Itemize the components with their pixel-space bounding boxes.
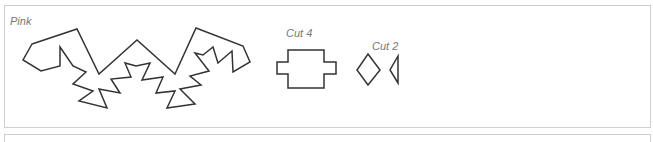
diamond-piece [357, 54, 380, 85]
pattern-shapes [0, 0, 653, 142]
main-wing-piece [23, 28, 250, 108]
triangle-piece [390, 56, 398, 83]
cut-4-piece [277, 50, 336, 88]
